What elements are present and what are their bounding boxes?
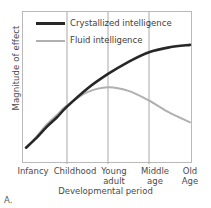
legend-label-crystallized: Crystallized intelligence bbox=[70, 19, 172, 28]
figure-panel-a: Magnitude of effect Crystallized intelli… bbox=[0, 0, 211, 208]
legend-item-fluid: Fluid intelligence bbox=[36, 34, 186, 47]
y-axis-title: Magnitude of effect bbox=[11, 8, 21, 128]
x-tick-young-adult: Young adult bbox=[91, 166, 137, 186]
x-axis-tick-labels: Infancy Childhood Young adult Middle age… bbox=[0, 166, 211, 188]
legend-item-crystallized: Crystallized intelligence bbox=[36, 17, 186, 30]
x-tick-middle-age: Middle age bbox=[133, 166, 177, 186]
panel-label: A. bbox=[4, 195, 12, 205]
legend: Crystallized intelligence Fluid intellig… bbox=[36, 17, 186, 47]
legend-swatch-crystallized-icon bbox=[36, 22, 65, 25]
x-axis-title: Developmental period bbox=[0, 186, 211, 196]
x-tick-old-age: Old Age bbox=[173, 166, 207, 186]
legend-label-fluid: Fluid intelligence bbox=[70, 36, 142, 45]
legend-swatch-fluid-icon bbox=[36, 40, 65, 42]
